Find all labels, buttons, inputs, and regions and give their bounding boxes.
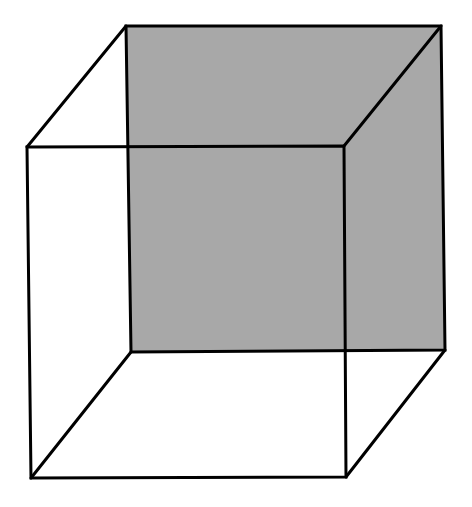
back-face-shaded [126,26,445,352]
necker-cube-diagram [0,0,472,507]
